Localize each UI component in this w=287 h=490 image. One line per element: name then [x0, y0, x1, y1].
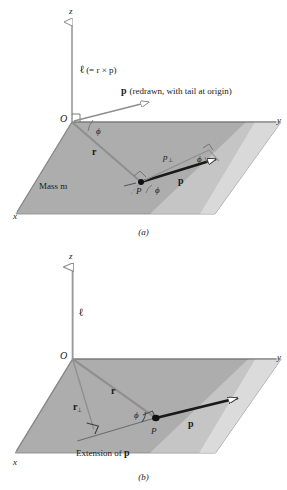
- extension-of-p-label: Extension of p: [76, 443, 130, 459]
- ell-expression-rest: (= r × p): [86, 65, 116, 75]
- extension-text: Extension of: [76, 448, 124, 458]
- x-axis-label: x: [13, 458, 17, 467]
- panel-b: z y x O ℓ r r⊥ p P ϕ Extension of p (b): [0, 245, 287, 490]
- ell-expression: ℓ(= r × p): [80, 60, 117, 76]
- panel-b-graphic: [0, 245, 287, 490]
- y-axis-label: y: [277, 353, 281, 362]
- y-axis-label: y: [277, 116, 281, 125]
- origin-label: O: [60, 351, 67, 361]
- phi-at-p-label: ϕ: [155, 186, 160, 195]
- p-redrawn-caption-rest: (redrawn, with tail at origin): [130, 86, 232, 96]
- p-redrawn-vector-label: p: [121, 85, 127, 96]
- panel-a: z y x O ℓ(= r × p) p(redrawn, with tail …: [0, 0, 287, 245]
- r-perp-label: r⊥: [73, 397, 82, 413]
- p-vector-label: p: [188, 419, 194, 429]
- origin-label: O: [60, 114, 67, 124]
- x-axis-label: x: [13, 212, 17, 221]
- phi-origin-label: ϕ: [96, 127, 101, 136]
- r-vector-label: r: [111, 386, 115, 396]
- r-perp-subscript: ⊥: [77, 407, 82, 413]
- p-perp-subscript: ⊥: [168, 157, 173, 163]
- phi-triangle-label: ϕ: [197, 155, 202, 164]
- panel-a-graphic: [0, 0, 287, 245]
- extension-vector-symbol: p: [124, 447, 130, 458]
- panel-a-caption: (a): [0, 228, 287, 237]
- particle-dot: [152, 415, 159, 421]
- particle-dot: [138, 179, 144, 185]
- p-redrawn-caption: p(redrawn, with tail at origin): [121, 81, 232, 97]
- phi-at-p-label: ϕ: [134, 411, 139, 420]
- mass-label: Mass m: [39, 182, 67, 191]
- p-redrawn-vector: [74, 102, 149, 121]
- p-vector-label: p: [178, 176, 184, 186]
- point-p-label: P: [136, 187, 142, 196]
- panel-b-caption: (b): [0, 473, 287, 482]
- p-perp-label: p⊥: [163, 147, 173, 163]
- ell-symbol: ℓ: [80, 63, 84, 76]
- ell-vector-label: ℓ: [79, 307, 83, 318]
- point-p-label: P: [151, 427, 157, 436]
- r-vector-label: r: [92, 147, 96, 157]
- z-axis-label: z: [69, 7, 73, 16]
- z-axis-label: z: [69, 252, 73, 261]
- angular-momentum-figure: z y x O ℓ(= r × p) p(redrawn, with tail …: [0, 0, 287, 490]
